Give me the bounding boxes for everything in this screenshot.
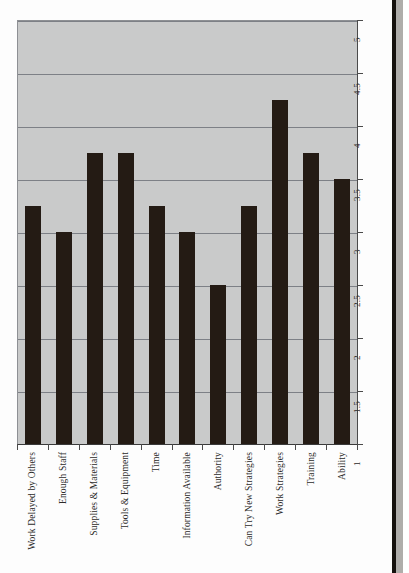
bar-slot: [203, 21, 234, 444]
bar-slot: [172, 21, 203, 444]
bar[interactable]: [210, 285, 226, 444]
bar-slot: [110, 21, 141, 444]
x-axis-tick: [172, 444, 173, 450]
bar[interactable]: [118, 153, 134, 445]
y-axis-tick-label: 5: [352, 8, 362, 42]
x-axis-category-label: Work Delayed by Others: [27, 452, 37, 550]
x-axis-category-label: Tools & Equipment: [120, 452, 130, 529]
x-axis-tick: [48, 444, 49, 450]
x-axis-tick: [326, 444, 327, 450]
y-axis-tick-label: 4.5: [352, 61, 362, 95]
page-edge-white: [403, 0, 409, 573]
y-axis-tick-label: 2.5: [352, 273, 362, 307]
bar-slot: [18, 21, 49, 444]
bar-slot: [80, 21, 111, 444]
x-axis-tick: [295, 444, 296, 450]
y-axis-tick-label: 1.5: [352, 379, 362, 413]
bar[interactable]: [272, 100, 288, 445]
x-axis-tick: [79, 444, 80, 450]
bar-slot: [49, 21, 80, 444]
x-axis-category-label: Time: [151, 452, 161, 472]
x-label-slot: Authority: [202, 452, 233, 570]
x-axis-tick: [264, 444, 265, 450]
x-axis-category-label: Training: [306, 452, 316, 486]
bar-slot: [234, 21, 265, 444]
bar-slot: [141, 21, 172, 444]
x-axis-tick: [141, 444, 142, 450]
x-axis-category-label: Enough Staff: [58, 452, 68, 504]
y-axis-tick-label: 3.5: [352, 167, 362, 201]
x-axis-tick: [202, 444, 203, 450]
x-label-slot: Time: [141, 452, 172, 570]
x-axis-category-label: Authority: [213, 452, 223, 490]
x-axis-category-label: Work Strategies: [275, 452, 285, 515]
bar[interactable]: [25, 206, 41, 445]
bar-slot: [265, 21, 296, 444]
bar-chart: 11.522.533.544.55 Work Delayed by Others…: [0, 0, 392, 573]
x-axis-tick: [110, 444, 111, 450]
x-label-slot: Ability: [326, 452, 357, 570]
x-label-slot: Training: [295, 452, 326, 570]
x-axis-category-labels: Work Delayed by OthersEnough StaffSuppli…: [17, 452, 357, 570]
x-axis-tick: [17, 444, 18, 450]
x-label-slot: Enough Staff: [48, 452, 79, 570]
page-edge-shadow: [396, 0, 403, 573]
x-axis-category-label: Supplies & Materials: [89, 452, 99, 536]
bar[interactable]: [179, 232, 195, 444]
scanned-page: 11.522.533.544.55 Work Delayed by Others…: [0, 0, 409, 573]
bar[interactable]: [149, 206, 165, 445]
x-axis-category-label: Information Available: [182, 452, 192, 539]
x-label-slot: Work Delayed by Others: [17, 452, 48, 570]
bar-slot: [295, 21, 326, 444]
bar[interactable]: [303, 153, 319, 445]
x-label-slot: Work Strategies: [264, 452, 295, 570]
y-axis-tick-label: 3: [352, 220, 362, 254]
x-label-slot: Can Try New Strategies: [233, 452, 264, 570]
x-label-slot: Information Available: [172, 452, 203, 570]
x-axis-category-label: Ability: [337, 452, 347, 480]
x-axis-category-label: Can Try New Strategies: [244, 452, 254, 546]
bar[interactable]: [87, 153, 103, 445]
y-axis-tick-label: 4: [352, 114, 362, 148]
plot-area: [17, 20, 357, 444]
x-axis-ticks: [17, 444, 357, 450]
x-axis-tick: [233, 444, 234, 450]
bar-series: [18, 21, 357, 444]
x-label-slot: Supplies & Materials: [79, 452, 110, 570]
bar[interactable]: [56, 232, 72, 444]
y-axis-tick-label: 2: [352, 326, 362, 360]
bar[interactable]: [334, 179, 350, 444]
x-label-slot: Tools & Equipment: [110, 452, 141, 570]
bar[interactable]: [241, 206, 257, 445]
